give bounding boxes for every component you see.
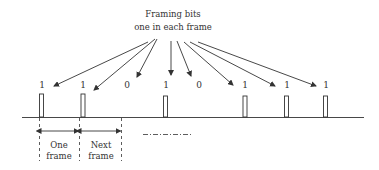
arrow-to-bit-3 xyxy=(137,39,157,77)
pulse xyxy=(40,94,44,117)
one-frame-label-line-2: frame xyxy=(46,151,71,161)
title-line-2: one in each frame xyxy=(134,22,212,32)
one-frame-label-line-1: One xyxy=(50,140,67,150)
bit-label: 1 xyxy=(80,80,86,90)
pulse xyxy=(243,96,247,117)
pointer-arrows xyxy=(54,39,316,90)
pulse xyxy=(285,96,289,117)
bit-label: 0 xyxy=(124,80,130,90)
next-frame-label-line-1: Next xyxy=(91,140,112,150)
bit-label: 0 xyxy=(196,80,202,90)
arrow-to-bit-6 xyxy=(184,42,233,85)
next-frame-label-line-2: frame xyxy=(88,151,113,161)
title-line-1: Framing bits xyxy=(145,9,200,19)
arrow-to-bit-7 xyxy=(190,42,275,86)
bit-labels: 1 1 0 1 0 1 1 1 xyxy=(39,80,329,90)
pulse xyxy=(324,96,328,117)
arrow-to-bit-1 xyxy=(54,42,148,86)
framing-bits-diagram: Framing bits one in each frame 1 1 0 1 0… xyxy=(0,0,379,170)
pulse xyxy=(164,96,168,117)
bit-label: 1 xyxy=(39,80,45,90)
bit-label: 1 xyxy=(323,80,329,90)
pulses xyxy=(40,94,328,117)
bit-label: 1 xyxy=(163,80,169,90)
pulse xyxy=(81,94,85,117)
bit-label: 1 xyxy=(242,80,248,90)
arrow-to-bit-8 xyxy=(198,42,316,86)
bit-label: 1 xyxy=(284,80,290,90)
